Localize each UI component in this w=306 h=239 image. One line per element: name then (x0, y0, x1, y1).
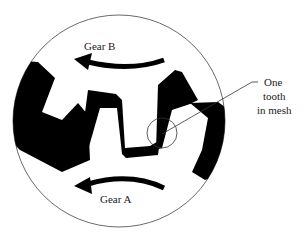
gear-mesh-diagram: Gear B Gear A One tooth in mesh (0, 0, 306, 239)
gear-a-arrowhead-icon (74, 177, 92, 194)
callout-label-line1: One (264, 76, 282, 88)
gear-b-arrowhead-icon (74, 53, 92, 70)
gear-a-tooth-center (80, 90, 160, 158)
gear-b-teeth (156, 70, 198, 150)
gear-b-label: Gear B (84, 40, 115, 52)
callout-label-line2: tooth (263, 90, 286, 102)
gear-a-label: Gear A (100, 193, 132, 205)
gear-b-rim (190, 102, 232, 180)
callout-label-line3: in mesh (257, 104, 292, 116)
gear-a-rotation-arrow (88, 179, 164, 188)
gear-b-rotation-arrow (88, 60, 164, 67)
gear-a-teeth (10, 60, 90, 172)
